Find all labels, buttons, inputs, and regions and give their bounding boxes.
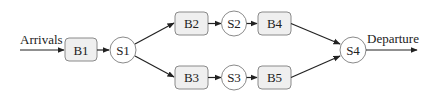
buffer-b2: B2 — [175, 12, 208, 35]
server-s3-label: S3 — [227, 70, 241, 85]
edge-s1-b3 — [135, 56, 174, 77]
server-s2-label: S2 — [227, 16, 241, 31]
server-s4: S4 — [340, 37, 366, 63]
server-s4-label: S4 — [346, 43, 360, 58]
buffer-b4: B4 — [258, 12, 291, 35]
edge-b4-s4 — [291, 24, 340, 45]
departure-label: Departure — [367, 31, 419, 46]
buffer-b1-label: B1 — [73, 43, 88, 58]
server-s1: S1 — [110, 37, 136, 63]
buffer-b2-label: B2 — [184, 16, 199, 31]
buffer-b5: B5 — [258, 66, 291, 89]
buffer-b3-label: B3 — [184, 70, 199, 85]
queueing-network-diagram: Arrivals B1 S1 B2 S2 B4 B3 S3 B5 — [0, 0, 438, 98]
server-s3: S3 — [222, 65, 247, 90]
buffer-b4-label: B4 — [267, 16, 283, 31]
buffer-b5-label: B5 — [267, 70, 282, 85]
edge-s1-b2 — [135, 23, 174, 44]
edge-b5-s4 — [291, 56, 340, 78]
server-s1-label: S1 — [116, 43, 130, 58]
server-s2: S2 — [222, 11, 247, 36]
buffer-b1: B1 — [65, 38, 97, 61]
arrivals-label: Arrivals — [20, 32, 63, 47]
buffer-b3: B3 — [175, 66, 208, 89]
